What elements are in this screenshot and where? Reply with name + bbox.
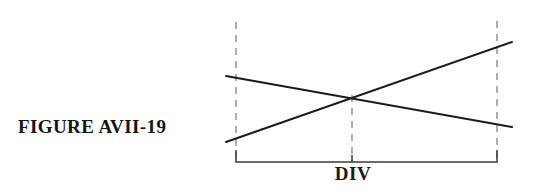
series-descending-line (226, 76, 512, 127)
plot-area (0, 0, 546, 189)
figure-container: FIGURE AVII-19 DIV (0, 0, 546, 189)
series-ascending-line (226, 42, 512, 142)
x-axis-label: DIV (322, 163, 384, 185)
x-axis (236, 150, 497, 162)
